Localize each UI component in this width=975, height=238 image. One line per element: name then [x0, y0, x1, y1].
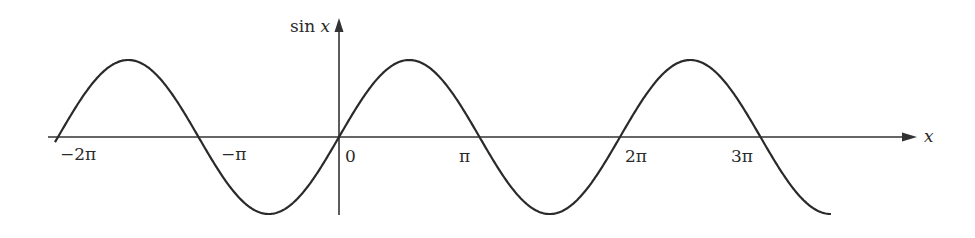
tick-label-neg-2pi: −2π: [60, 144, 96, 164]
tick-label-neg-pi: −π: [221, 144, 246, 164]
y-axis-label: sin x: [290, 16, 331, 36]
tick-label-2pi: 2π: [625, 146, 647, 166]
sine-chart: sin x x −2π −π 0 π 2π 3π: [0, 0, 975, 238]
y-axis-arrow-icon: [335, 18, 344, 32]
tick-label-3pi: 3π: [731, 146, 753, 166]
x-axis-arrow-icon: [902, 133, 917, 142]
x-axis-label: x: [924, 126, 934, 146]
tick-label-zero: 0: [345, 146, 356, 166]
tick-label-pi: π: [459, 146, 470, 166]
